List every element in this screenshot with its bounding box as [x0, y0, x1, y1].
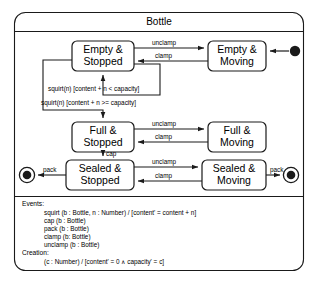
- events-item-unclamp: unclamp (b : Bottle): [44, 241, 99, 249]
- transition-label-sealed-clamp: clamp: [155, 172, 172, 180]
- creation-item: (c : Number) / [content' = 0 ∧ capacity'…: [44, 258, 164, 266]
- transition-label-empty-unclamp: unclamp: [152, 39, 176, 47]
- events-heading: Events:: [22, 200, 44, 208]
- state-box-full-moving: [208, 122, 266, 152]
- transition-label-pack-right: pack: [270, 166, 284, 174]
- final-state-right-marker: [283, 167, 298, 182]
- state-box-empty-stopped: [72, 41, 134, 71]
- transition-label-cap: cap: [106, 150, 116, 158]
- state-machine-diagram: Bottle Empty & Stopped Empty & Moving Fu…: [0, 0, 318, 283]
- state-box-full-stopped: [72, 122, 134, 152]
- state-box-sealed-stopped: [66, 160, 134, 190]
- transition-label-squirt-self: squirt(n) [content + n < capacity]: [48, 85, 139, 93]
- transition-label-full-unclamp: unclamp: [152, 120, 176, 128]
- diagram-title: Bottle: [0, 16, 318, 27]
- initial-state-marker: [290, 46, 300, 56]
- transition-label-empty-clamp: clamp: [155, 52, 172, 60]
- events-item-cap: cap (b : Bottle): [44, 217, 86, 225]
- state-box-sealed-moving: [202, 160, 266, 190]
- transition-label-full-clamp: clamp: [155, 133, 172, 141]
- final-state-left-marker: [19, 167, 34, 182]
- transition-label-squirt-full: squirt(n) [content + n >= capacity]: [41, 99, 136, 107]
- transition-label-sealed-unclamp: unclamp: [152, 158, 176, 166]
- events-item-squirt: squirt (b : Bottle, n : Number) / [conte…: [44, 209, 196, 217]
- events-item-pack: pack (b : Bottle): [44, 225, 89, 233]
- creation-heading: Creation:: [22, 249, 49, 257]
- transition-label-pack-left: pack: [43, 166, 57, 174]
- events-item-clamp: clamp (b: Bottle): [44, 233, 91, 241]
- state-box-empty-moving: [208, 41, 266, 71]
